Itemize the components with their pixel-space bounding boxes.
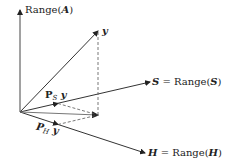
h-label: H = Range(H) xyxy=(148,148,222,158)
y-label: y xyxy=(102,26,108,36)
s-label: S = Range(S) xyxy=(152,77,222,87)
range-a-label: Range(A) xyxy=(25,5,73,15)
dashed-ph-side xyxy=(58,115,98,125)
ps-y-label: PS y xyxy=(45,90,67,100)
ps-y-vector xyxy=(20,104,58,113)
y-plane-projection xyxy=(20,112,98,115)
